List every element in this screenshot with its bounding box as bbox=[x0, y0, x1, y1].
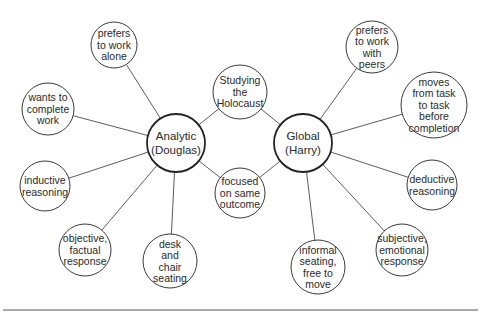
node-label-line: work bbox=[36, 114, 60, 126]
node-label-line: response bbox=[380, 255, 423, 267]
connector-global-subjective bbox=[323, 164, 385, 231]
node-label-line: to work bbox=[355, 35, 390, 47]
node-label-line: Global bbox=[286, 130, 319, 142]
connector-analytic-complete-work bbox=[73, 116, 148, 136]
node-label-line: factual bbox=[70, 244, 101, 256]
node-task-to-task: movesfrom taskto taskbeforecompletion bbox=[401, 72, 467, 138]
connector-global-task-to-task bbox=[331, 114, 402, 135]
connector-analytic-objective bbox=[102, 165, 157, 230]
connector-analytic-inductive bbox=[69, 152, 149, 178]
node-label-line: alone bbox=[101, 50, 127, 62]
node-inductive: inductivereasoning bbox=[20, 161, 70, 211]
node-label-line: reasoning bbox=[409, 185, 455, 197]
node-objective: objective,factualresponse bbox=[59, 224, 111, 276]
node-label-line: complete bbox=[27, 103, 70, 115]
node-label-line: Holocaust bbox=[217, 97, 264, 109]
node-label-line: to work bbox=[97, 39, 132, 51]
connector-global-informal-seating bbox=[307, 172, 315, 240]
node-label-line: completion bbox=[409, 122, 460, 134]
node-label-line: prefers bbox=[98, 27, 131, 39]
node-label-line: objective, bbox=[63, 232, 107, 244]
connector-global-focused bbox=[260, 161, 281, 178]
node-holocaust: StudyingtheHolocaust bbox=[213, 65, 267, 119]
node-label-line: on same bbox=[220, 187, 260, 199]
node-label-line: response bbox=[63, 255, 106, 267]
node-label-line: the bbox=[233, 86, 248, 98]
connector-analytic-desk-chair bbox=[171, 172, 174, 234]
node-deductive: deductivereasoning bbox=[407, 160, 457, 210]
connector-analytic-holocaust bbox=[199, 109, 219, 125]
node-prefers-peers: prefersto workwithpeers bbox=[346, 21, 398, 73]
node-prefers-alone: prefersto workalone bbox=[91, 22, 137, 68]
node-label-line: outcome bbox=[220, 198, 260, 210]
node-label-line: inductive bbox=[24, 174, 66, 186]
connector-global-prefers-peers bbox=[320, 68, 357, 119]
connector-global-holocaust bbox=[261, 109, 281, 125]
node-label-line: and bbox=[161, 249, 179, 261]
node-analytic: Analytic(Douglas) bbox=[147, 114, 205, 172]
node-label-line: before bbox=[419, 110, 449, 122]
node-label-line: to task bbox=[419, 99, 451, 111]
node-label-line: deductive bbox=[410, 173, 455, 185]
learning-style-diagram: Analytic(Douglas)Global(Harry)Studyingth… bbox=[0, 0, 489, 314]
node-label-line: emotional bbox=[379, 244, 425, 256]
node-label-line: move bbox=[305, 278, 331, 290]
diagram-nodes: Analytic(Douglas)Global(Harry)Studyingth… bbox=[20, 21, 467, 294]
node-label-line: reasoning bbox=[22, 186, 68, 198]
node-label-line: (Harry) bbox=[285, 144, 321, 156]
node-informal-seating: informalseating,free tomove bbox=[291, 240, 345, 294]
node-label-line: from task bbox=[412, 87, 456, 99]
node-label-line: (Douglas) bbox=[151, 144, 201, 156]
node-label-line: seating, bbox=[300, 255, 337, 267]
connector-global-deductive bbox=[331, 152, 409, 177]
node-label-line: peers bbox=[359, 58, 385, 70]
node-label-line: wants to bbox=[27, 91, 67, 103]
node-label-line: seating bbox=[153, 272, 187, 284]
node-complete-work: wants tocompletework bbox=[22, 83, 74, 135]
node-focused: focusedon sameoutcome bbox=[215, 168, 265, 218]
node-label-line: free to bbox=[303, 267, 333, 279]
connector-analytic-focused bbox=[199, 161, 220, 178]
node-subjective: subjective,emotionalresponse bbox=[376, 224, 428, 276]
node-label-line: Analytic bbox=[156, 130, 197, 142]
node-label-line: with bbox=[362, 47, 382, 59]
node-label-line: moves bbox=[419, 76, 450, 88]
node-label-line: informal bbox=[299, 244, 336, 256]
node-label-line: focused bbox=[222, 175, 259, 187]
connector-analytic-prefers-alone bbox=[126, 64, 160, 118]
node-label-line: subjective, bbox=[377, 232, 427, 244]
node-label-line: Studying bbox=[220, 74, 261, 86]
node-desk-chair: deskandchairseating bbox=[143, 234, 197, 288]
node-label-line: chair bbox=[159, 261, 182, 273]
node-label-line: prefers bbox=[356, 24, 389, 36]
node-label-line: desk bbox=[159, 238, 182, 250]
node-global: Global(Harry) bbox=[274, 114, 332, 172]
